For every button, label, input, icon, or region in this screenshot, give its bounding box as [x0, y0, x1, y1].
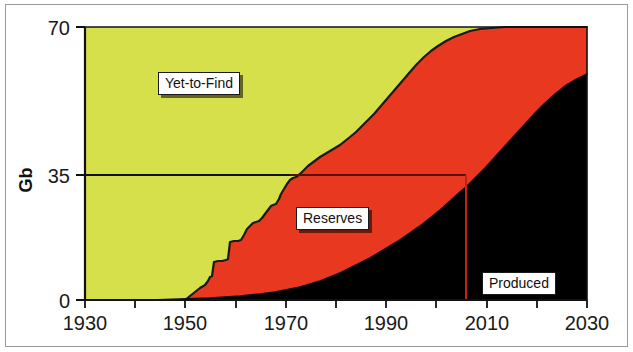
area-chart: 70 35 0 Gb 1930 1950 1970 1990 2010 2030: [0, 0, 633, 352]
y-tick-label-70: 70: [48, 17, 70, 39]
legend-callout-produced: Produced: [482, 272, 556, 295]
y-axis-title: Gb: [16, 167, 36, 192]
legend-callout-reserves: Reserves: [296, 207, 369, 230]
x-tick-label-1970: 1970: [264, 312, 309, 334]
chart-figure: 70 35 0 Gb 1930 1950 1970 1990 2010 2030…: [0, 0, 633, 352]
x-tick-label-1950: 1950: [163, 312, 208, 334]
x-tick-label-2030: 2030: [565, 312, 610, 334]
x-tick-label-1990: 1990: [364, 312, 409, 334]
y-tick-label-0: 0: [59, 290, 70, 312]
legend-callout-yet-to-find: Yet-to-Find: [158, 72, 240, 95]
x-tick-label-2010: 2010: [465, 312, 510, 334]
y-tick-label-35: 35: [48, 165, 70, 187]
x-tick-label-1930: 1930: [63, 312, 108, 334]
